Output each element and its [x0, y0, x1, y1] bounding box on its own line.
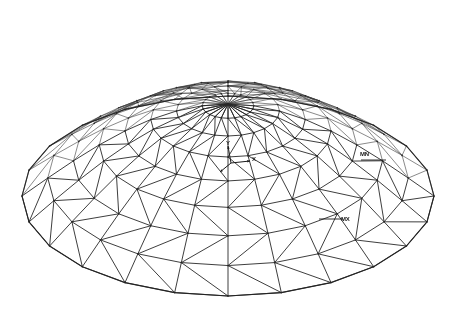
- dome-wireframe-mesh: [0, 0, 455, 319]
- axis-y-label: Y: [226, 140, 230, 146]
- fea-wireframe-plot: MN MX X Y: [0, 0, 455, 319]
- axis-x-label: X: [252, 156, 256, 162]
- max-marker-label: MX: [341, 216, 350, 222]
- min-marker-label: MN: [360, 151, 369, 157]
